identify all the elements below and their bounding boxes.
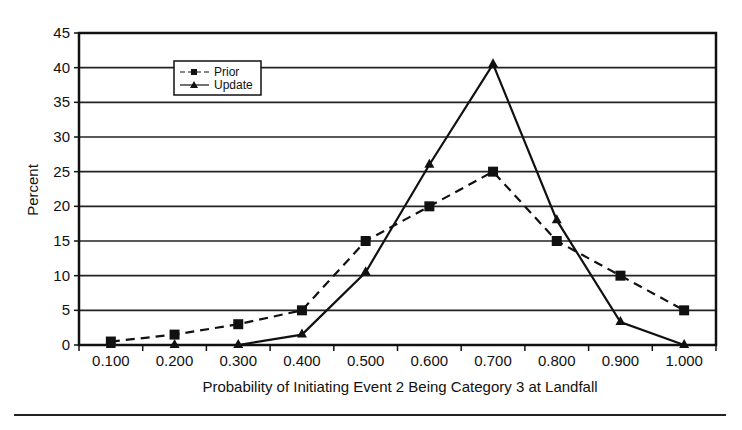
legend-label-update: Update <box>214 78 253 92</box>
y-axis-title: Percent <box>24 163 41 216</box>
legend-label-prior: Prior <box>214 65 239 79</box>
x-tick-label: 0.700 <box>474 352 512 369</box>
triangle-marker-icon <box>488 58 498 67</box>
x-tick-label: 0.600 <box>411 352 449 369</box>
square-marker-icon <box>679 305 689 315</box>
square-marker-icon <box>488 167 498 177</box>
x-tick-label: 0.800 <box>538 352 576 369</box>
legend: Prior Update <box>174 61 261 95</box>
square-marker-icon <box>615 271 625 281</box>
square-marker-icon <box>297 305 307 315</box>
x-axis-title: Probability of Initiating Event 2 Being … <box>202 378 597 395</box>
square-marker-icon <box>233 319 243 329</box>
triangle-marker-icon <box>552 214 562 223</box>
x-tick-label: 0.100 <box>92 352 130 369</box>
square-marker-icon <box>424 201 434 211</box>
x-tick-label: 0.400 <box>283 352 321 369</box>
y-tick-label: 25 <box>53 163 70 180</box>
x-tick-label: 0.500 <box>347 352 385 369</box>
y-tick-label: 30 <box>53 128 70 145</box>
x-axis: 0.1000.2000.3000.4000.5000.6000.7000.800… <box>79 345 716 369</box>
square-marker-icon <box>552 236 562 246</box>
y-tick-label: 15 <box>53 232 70 249</box>
x-tick-label: 0.300 <box>219 352 257 369</box>
y-tick-label: 5 <box>62 301 70 318</box>
x-tick-label: 1.000 <box>665 352 703 369</box>
y-tick-label: 35 <box>53 93 70 110</box>
square-marker-icon <box>361 236 371 246</box>
square-marker-icon <box>191 69 197 75</box>
series-line-prior <box>111 172 684 342</box>
y-tick-label: 0 <box>62 336 70 353</box>
y-tick-label: 10 <box>53 267 70 284</box>
y-tick-label: 20 <box>53 197 70 214</box>
square-marker-icon <box>170 330 180 340</box>
divider-rule <box>14 414 726 416</box>
triangle-marker-icon <box>170 339 180 348</box>
y-tick-label: 45 <box>53 24 70 41</box>
x-tick-label: 0.200 <box>156 352 194 369</box>
y-axis: 051015202530354045 <box>53 24 79 353</box>
series-line-update <box>111 64 684 345</box>
y-tick-label: 40 <box>53 59 70 76</box>
x-tick-label: 0.900 <box>602 352 640 369</box>
line-chart: 051015202530354045 0.1000.2000.3000.4000… <box>0 0 742 430</box>
